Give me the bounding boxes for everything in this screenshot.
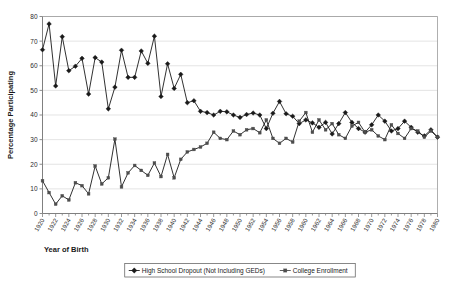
- series-marker-dropout: [336, 121, 341, 126]
- series-marker-dropout: [119, 48, 124, 53]
- series-marker-college: [258, 131, 261, 134]
- series-marker-dropout: [284, 111, 289, 116]
- series-marker-college: [390, 123, 393, 126]
- line-chart: 01020304050607080Percentage Participatin…: [0, 0, 461, 289]
- series-marker-college: [351, 125, 354, 128]
- series-marker-college: [54, 203, 57, 206]
- series-marker-dropout: [126, 75, 131, 80]
- series-marker-college: [423, 136, 426, 139]
- series-marker-college: [410, 127, 413, 130]
- series-marker-college: [41, 179, 44, 182]
- x-axis-tick-label: 1940: [164, 217, 177, 233]
- series-marker-college: [239, 133, 242, 136]
- chart-container: 01020304050607080Percentage Participatin…: [0, 0, 461, 289]
- series-line-college: [43, 113, 438, 205]
- series-marker-college: [370, 128, 373, 131]
- series-marker-dropout: [231, 113, 236, 118]
- y-axis-title: Percentage Participating: [6, 71, 15, 159]
- series-marker-dropout: [139, 49, 144, 54]
- x-axis-tick-label: 1972: [375, 217, 388, 233]
- x-axis-tick-label: 1946: [204, 217, 217, 233]
- x-axis-tick-label: 1976: [401, 217, 414, 233]
- series-marker-dropout: [205, 110, 210, 115]
- x-axis-tick-label: 1942: [177, 217, 190, 233]
- x-axis-tick-label: 1948: [217, 217, 230, 233]
- x-axis-tick-label: 1958: [283, 217, 296, 233]
- x-axis-tick-label: 1962: [309, 217, 322, 233]
- x-axis-tick-label: 1974: [388, 217, 401, 233]
- series-marker-dropout: [53, 84, 58, 89]
- x-axis-tick-label: 1964: [322, 217, 335, 233]
- x-axis-tick-label: 1930: [98, 217, 111, 233]
- series-marker-dropout: [238, 115, 243, 120]
- series-marker-college: [416, 130, 419, 133]
- series-marker-college: [285, 137, 288, 140]
- series-marker-college: [436, 136, 439, 139]
- x-axis-tick-label: 1938: [151, 217, 164, 233]
- series-marker-dropout: [86, 92, 91, 97]
- x-axis-tick-label: 1920: [33, 217, 46, 233]
- x-axis-tick-label: 1970: [362, 217, 375, 233]
- series-marker-dropout: [264, 126, 269, 131]
- series-marker-dropout: [198, 109, 203, 114]
- series-marker-college: [278, 142, 281, 145]
- x-axis-tick-label: 1944: [191, 217, 204, 233]
- y-axis-tick-label: 40: [30, 111, 38, 118]
- y-axis-tick-label: 80: [30, 13, 38, 20]
- series-marker-college: [67, 199, 70, 202]
- series-marker-college: [140, 169, 143, 172]
- series-marker-college: [212, 131, 215, 134]
- legend-label-dropout: High School Dropout (Not Including GEDs): [142, 267, 265, 275]
- series-marker-college: [324, 128, 327, 131]
- series-marker-dropout: [277, 99, 282, 104]
- series-marker-college: [265, 119, 268, 122]
- x-axis-tick-label: 1936: [138, 217, 151, 233]
- series-marker-college: [337, 133, 340, 136]
- x-axis-tick-label: 1960: [296, 217, 309, 233]
- series-marker-college: [272, 137, 275, 140]
- series-marker-college: [377, 135, 380, 138]
- series-marker-college: [364, 131, 367, 134]
- series-marker-college: [61, 194, 64, 197]
- series-marker-college: [397, 132, 400, 135]
- x-axis-title: Year of Birth: [44, 245, 89, 254]
- x-axis-tick-label: 1978: [414, 217, 427, 233]
- series-marker-college: [160, 175, 163, 178]
- series-marker-college: [357, 121, 360, 124]
- series-marker-college: [199, 146, 202, 149]
- series-marker-college: [146, 174, 149, 177]
- series-marker-college: [127, 171, 130, 174]
- series-marker-college: [94, 165, 97, 168]
- series-marker-dropout: [40, 47, 45, 52]
- series-marker-college: [304, 111, 307, 114]
- series-marker-college: [107, 176, 110, 179]
- y-axis-tick-label: 30: [30, 136, 38, 143]
- series-marker-college: [74, 181, 77, 184]
- x-axis-tick-label: 1950: [230, 217, 243, 233]
- series-marker-college: [252, 127, 255, 130]
- series-marker-college: [87, 192, 90, 195]
- y-axis-tick-label: 50: [30, 87, 38, 94]
- series-marker-college: [383, 138, 386, 141]
- x-axis-tick-label: 1968: [349, 217, 362, 233]
- series-marker-college: [430, 130, 433, 133]
- series-marker-dropout: [113, 85, 118, 90]
- series-marker-college: [403, 137, 406, 140]
- legend-label-college: College Enrollment: [293, 267, 348, 275]
- series-marker-college: [173, 176, 176, 179]
- series-marker-dropout: [185, 100, 190, 105]
- series-marker-college: [318, 119, 321, 122]
- series-marker-college: [245, 128, 248, 131]
- series-marker-dropout: [47, 22, 52, 27]
- series-marker-college: [225, 138, 228, 141]
- series-marker-college: [153, 162, 156, 165]
- x-axis-tick-label: 1926: [72, 217, 85, 233]
- series-marker-dropout: [257, 113, 262, 118]
- x-axis-tick-label: 1956: [270, 217, 283, 233]
- series-marker-dropout: [218, 109, 223, 114]
- y-axis-tick-label: 10: [30, 185, 38, 192]
- x-axis-tick-label: 1954: [256, 217, 269, 233]
- series-marker-college: [179, 158, 182, 161]
- series-marker-college: [81, 184, 84, 187]
- series-marker-college: [186, 151, 189, 154]
